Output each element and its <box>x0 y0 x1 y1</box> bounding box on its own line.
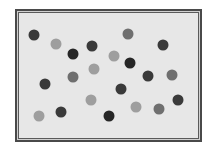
dot-darkest <box>125 58 136 69</box>
dot-darkest <box>68 49 79 60</box>
dot-dark <box>40 79 51 90</box>
dot-light <box>89 64 100 75</box>
dot-medium <box>123 29 134 40</box>
dot-light <box>86 95 97 106</box>
dot-darkest <box>104 111 115 122</box>
dot-light <box>34 111 45 122</box>
dot-medium <box>167 70 178 81</box>
dot-light <box>131 102 142 113</box>
dot-light <box>51 39 62 50</box>
dot-dark <box>29 30 40 41</box>
dot-dark <box>87 41 98 52</box>
dot-medium <box>68 72 79 83</box>
dot-light <box>109 51 120 62</box>
dot-dark <box>143 71 154 82</box>
dot-dark <box>158 40 169 51</box>
dot-dark <box>173 95 184 106</box>
dot-dark <box>56 107 67 118</box>
dot-medium <box>154 104 165 115</box>
dot-dark <box>116 84 127 95</box>
